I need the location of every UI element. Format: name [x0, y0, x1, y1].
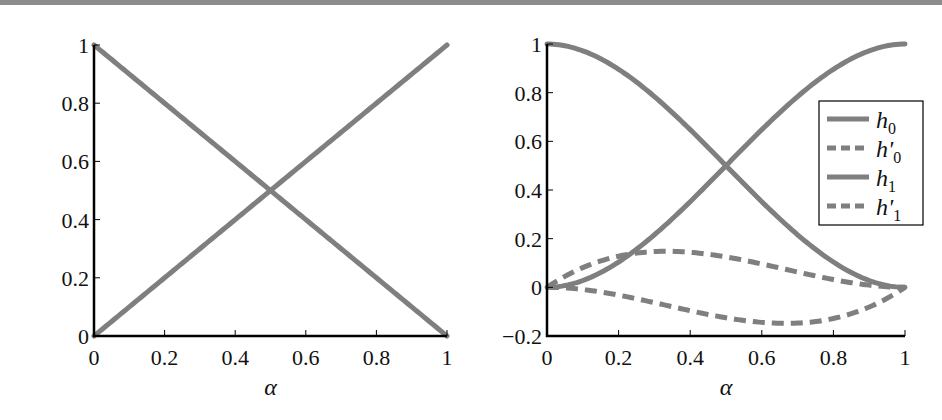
y-tick-label: 1 [78, 33, 89, 58]
right-plot: 00.20.40.60.81−0.200.20.40.60.81αh0h'0h1… [502, 32, 923, 400]
y-tick-label: 0.8 [62, 91, 90, 116]
x-tick-label: 0.2 [151, 345, 179, 370]
x-axis-title: α [720, 374, 733, 400]
y-tick-label: −0.2 [502, 324, 542, 349]
y-tick-label: 0.8 [515, 81, 543, 106]
x-tick-label: 1 [900, 345, 911, 370]
y-tick-label: 0.6 [515, 129, 543, 154]
figure: 00.20.40.60.8100.20.40.60.81α 00.20.40.6… [0, 0, 942, 420]
x-axis-title: α [264, 374, 277, 400]
x-tick-label: 0.2 [605, 345, 633, 370]
y-tick-label: 0.2 [515, 227, 543, 252]
x-tick-label: 0 [542, 345, 553, 370]
y-tick-label: 0 [531, 275, 542, 300]
x-tick-label: 0.8 [820, 345, 848, 370]
x-tick-label: 0.6 [292, 345, 320, 370]
x-tick-label: 1 [442, 345, 453, 370]
series-h-0-line [547, 251, 905, 287]
y-tick-label: 0.4 [515, 178, 543, 203]
y-tick-label: 0.6 [62, 149, 90, 174]
x-tick-label: 0.6 [748, 345, 776, 370]
left-plot: 00.20.40.60.8100.20.40.60.81α [62, 33, 453, 400]
y-tick-label: 0.2 [62, 266, 90, 291]
x-tick-label: 0.8 [363, 345, 391, 370]
x-tick-label: 0 [89, 345, 100, 370]
x-tick-label: 0.4 [221, 345, 249, 370]
x-tick-label: 0.4 [676, 345, 704, 370]
y-tick-label: 0.4 [62, 208, 90, 233]
y-tick-label: 0 [78, 324, 89, 349]
series-h-1-line [547, 287, 905, 323]
y-tick-label: 1 [531, 32, 542, 57]
legend: h0h'0h1h'1 [819, 101, 923, 225]
